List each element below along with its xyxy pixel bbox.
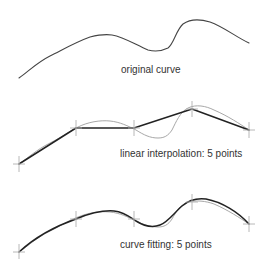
control-point-marker: [243, 216, 255, 232]
control-point-marker: [186, 101, 198, 117]
control-point-marker: [243, 122, 255, 138]
control-point-marker: [128, 120, 140, 136]
panel-linear-interpolation: linear interpolation: 5 points: [13, 101, 255, 172]
label-curve-fitting: curve fitting: 5 points: [120, 239, 212, 250]
label-linear-interpolation: linear interpolation: 5 points: [120, 148, 242, 159]
panel-original: original curve: [19, 20, 249, 78]
panel-curve-fitting: curve fitting: 5 points: [13, 194, 255, 259]
control-point-marker: [13, 244, 25, 259]
control-point-marker: [128, 211, 140, 227]
control-point-marker: [70, 120, 82, 136]
interpolation-diagram: original curve linear interpolation: 5 p…: [0, 0, 279, 259]
label-original-curve: original curve: [121, 64, 181, 75]
control-point-marker: [70, 211, 82, 227]
control-point-marker: [186, 194, 198, 210]
control-point-marker: [13, 156, 25, 172]
